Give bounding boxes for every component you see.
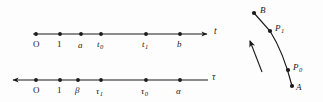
tau-axis-tick-O — [34, 78, 38, 82]
tau-axis-label-tau1-base: τ — [96, 86, 99, 96]
tau-axis-label-alpha: α — [176, 87, 181, 96]
tau-axis-name-label: τ — [212, 73, 216, 83]
curve-point-P0 — [286, 68, 290, 72]
t-axis-label-a: a — [78, 41, 83, 50]
curve-label-A: A — [296, 83, 302, 92]
tau-axis-tick-beta — [76, 78, 80, 82]
curve-group — [250, 11, 294, 88]
tau-axis-label-beta: β — [75, 86, 80, 95]
t-axis-label-O: O — [33, 40, 40, 49]
t-axis-tick-t1 — [144, 32, 148, 36]
t-axis-tick-t0 — [99, 32, 103, 36]
curve-point-B — [252, 11, 256, 15]
t-axis-name-label: t — [214, 27, 217, 37]
curve-label-B: B — [260, 6, 266, 15]
curve-point-A — [290, 84, 294, 88]
tau-axis-label-tau1-sub: 1 — [100, 90, 103, 97]
tau-axis-label-tau1: τ1 — [96, 87, 103, 96]
figure-container: O 1 a t0 t1 b t O 1 β τ1 τ0 α τ B P1 P0 … — [0, 0, 323, 102]
t-axis-tick-1 — [58, 32, 62, 36]
tau-axis-group — [13, 78, 208, 82]
curve-label-P0-sub: 0 — [299, 66, 302, 73]
tau-axis-label-O: O — [33, 86, 40, 95]
tau-axis-label-tau0: τ0 — [141, 87, 148, 96]
tau-axis-label-1: 1 — [57, 86, 62, 95]
tau-axis-label-tau0-base: τ — [141, 86, 144, 96]
t-axis-label-b: b — [177, 40, 182, 49]
tau-axis-tick-1 — [58, 78, 62, 82]
t-axis-tick-a — [79, 32, 83, 36]
tau-axis-label-tau0-sub: 0 — [145, 90, 148, 97]
t-axis-tick-b — [178, 32, 182, 36]
t-axis-label-t0: t0 — [97, 40, 103, 49]
t-axis-group — [33, 32, 207, 36]
direction-arrow-icon — [250, 41, 262, 72]
t-axis-tick-O — [34, 32, 38, 36]
curve-path-A-to-B — [254, 13, 292, 86]
t-axis-label-t1-sub: 1 — [145, 43, 148, 50]
curve-point-P1 — [268, 29, 272, 33]
t-axis-label-t0-sub: 0 — [100, 43, 103, 50]
curve-label-P0-base: P — [293, 62, 299, 72]
tau-axis-tick-alpha — [178, 78, 182, 82]
tau-axis-tick-tau1 — [99, 78, 103, 82]
t-axis-label-1: 1 — [57, 40, 62, 49]
figure-graphics — [0, 0, 323, 102]
curve-label-P1-base: P — [275, 23, 281, 33]
curve-label-P1-sub: 1 — [281, 27, 284, 34]
tau-axis-tick-tau0 — [144, 78, 148, 82]
curve-label-P1: P1 — [275, 24, 284, 33]
curve-label-P0: P0 — [293, 63, 302, 72]
t-axis-label-t1: t1 — [142, 40, 148, 49]
